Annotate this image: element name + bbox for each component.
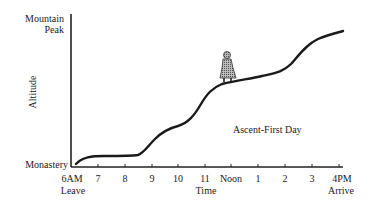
arrive-label: Arrive <box>328 185 354 196</box>
x-tick-label: 3 <box>310 173 315 184</box>
x-tick-label: 6AM <box>61 173 82 184</box>
leave-label: Leave <box>61 185 85 196</box>
x-tick-label: 9 <box>150 173 155 184</box>
x-tick-label: 7 <box>96 173 101 184</box>
hiker-icon <box>220 52 236 83</box>
x-tick-label: 4PM <box>332 173 351 184</box>
ascent-line <box>76 31 343 164</box>
y-top-label-2: Peak <box>45 24 64 35</box>
y-top-label: Mountain <box>25 13 64 24</box>
x-tick-label: 8 <box>123 173 128 184</box>
x-tick-label: 2 <box>283 173 288 184</box>
x-tick-label: 10 <box>173 173 183 184</box>
annotation-label: Ascent-First Day <box>233 124 302 135</box>
y-bottom-label: Monastery <box>25 159 68 170</box>
x-axis-label: Time <box>196 185 217 196</box>
x-tick-label: 1 <box>256 173 261 184</box>
x-tick-label: 11 <box>200 173 210 184</box>
x-tick-label: Noon <box>220 173 242 184</box>
y-axis-label: Altitude <box>27 76 38 109</box>
